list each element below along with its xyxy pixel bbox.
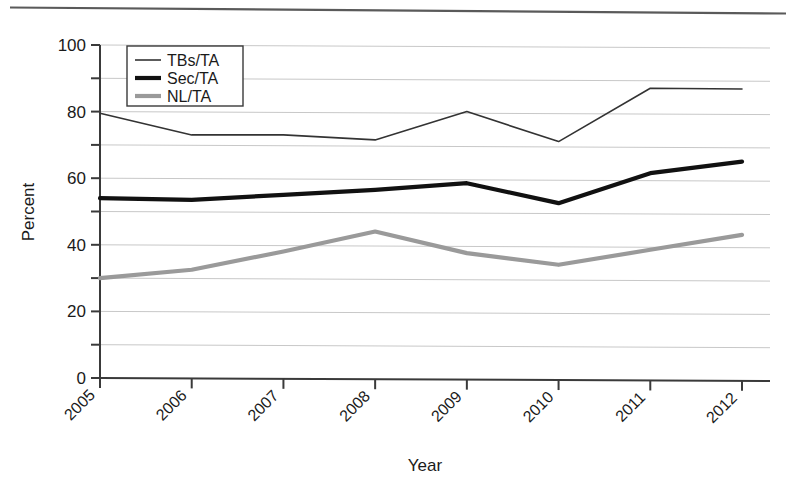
y-tick-label: 0 [77, 369, 86, 388]
x-axis-spine [100, 378, 770, 381]
grid-line [100, 278, 770, 281]
x-tick-label: 2009 [428, 388, 465, 425]
y-axis-title: Percent [19, 182, 38, 241]
series-lines [100, 88, 742, 278]
grid-line [100, 311, 770, 314]
legend-label-tbs-ta: TBs/TA [167, 52, 219, 69]
grid-line [100, 345, 770, 348]
x-tick-label: 2007 [244, 387, 281, 424]
line-chart-plot: 020406080100 200520062007200820092010201… [0, 0, 786, 486]
x-tick-label: 2005 [61, 386, 98, 423]
grid-line [100, 112, 770, 115]
y-tick-label: 20 [67, 302, 86, 321]
x-axis-title: Year [408, 456, 443, 475]
y-tick-label: 80 [67, 103, 86, 122]
legend-label-nl-ta: NL/TA [167, 88, 211, 105]
y-tick-label: 100 [58, 36, 86, 55]
chart-figure: 020406080100 200520062007200820092010201… [0, 0, 786, 486]
series-line-nl-ta [100, 231, 742, 278]
y-tick-label: 60 [67, 169, 86, 188]
grid-line [100, 178, 770, 181]
x-tick-label: 2010 [520, 388, 557, 425]
x-axis: 20052006200720082009201020112012 [61, 378, 770, 426]
x-tick-label: 2006 [153, 386, 190, 423]
y-tick-label: 40 [67, 236, 86, 255]
x-tick-label: 2012 [703, 389, 740, 426]
series-line-sec-ta [100, 162, 742, 204]
x-tick-label: 2008 [336, 387, 373, 424]
chart-legend: TBs/TASec/TANL/TA [127, 46, 243, 106]
x-tick-label: 2011 [612, 388, 648, 424]
grid-line [100, 212, 770, 215]
y-axis: 020406080100 [58, 36, 100, 388]
grid-line [100, 145, 770, 148]
legend-label-sec-ta: Sec/TA [167, 70, 219, 87]
